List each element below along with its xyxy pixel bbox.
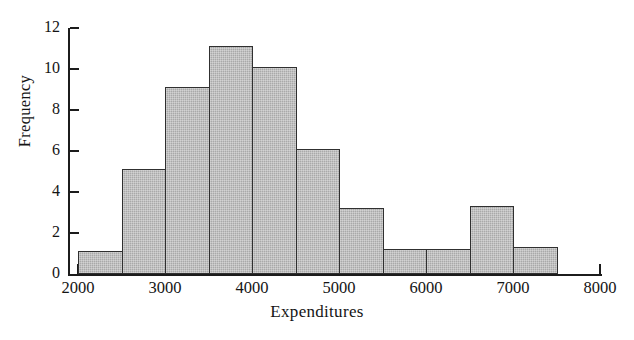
y-axis-tick bbox=[70, 68, 79, 70]
y-axis-tick bbox=[70, 150, 79, 152]
y-axis-title: Frequency bbox=[15, 21, 37, 201]
y-axis-tick bbox=[70, 191, 79, 193]
plot-area: 024681012 2000300040005000600070008000 F… bbox=[0, 0, 634, 340]
x-axis-tick-label: 8000 bbox=[560, 279, 634, 297]
histogram-bar bbox=[209, 46, 254, 274]
y-axis-tick bbox=[70, 109, 79, 111]
histogram-bar bbox=[513, 247, 558, 274]
histogram-chart: 024681012 2000300040005000600070008000 F… bbox=[0, 0, 634, 340]
y-axis-title-text: Frequency bbox=[15, 21, 35, 201]
y-axis-tick bbox=[70, 232, 79, 234]
y-axis-tick-label: 2 bbox=[18, 224, 60, 240]
y-axis-line bbox=[68, 28, 70, 276]
histogram-bar bbox=[470, 206, 515, 274]
x-axis-tick-label: 7000 bbox=[473, 279, 553, 297]
x-axis-tick-label: 2000 bbox=[38, 279, 118, 297]
x-axis-tick-label: 5000 bbox=[299, 279, 379, 297]
x-axis-line bbox=[68, 274, 602, 276]
x-axis-tick-label: 4000 bbox=[212, 279, 292, 297]
histogram-bar bbox=[122, 169, 167, 274]
y-axis-tick bbox=[70, 27, 79, 29]
x-axis-tick bbox=[599, 264, 601, 274]
histogram-bar bbox=[339, 208, 384, 274]
histogram-bar bbox=[78, 251, 123, 274]
histogram-bar bbox=[383, 249, 428, 274]
histogram-bar bbox=[165, 87, 210, 274]
x-axis-title-text: Expenditures bbox=[0, 302, 634, 322]
histogram-bar bbox=[252, 67, 297, 274]
x-axis-tick-label: 6000 bbox=[386, 279, 466, 297]
histogram-bar bbox=[296, 149, 341, 274]
y-axis-tick-label-text: 2 bbox=[18, 224, 60, 240]
x-axis-tick-label: 3000 bbox=[125, 279, 205, 297]
histogram-bar bbox=[426, 249, 471, 274]
